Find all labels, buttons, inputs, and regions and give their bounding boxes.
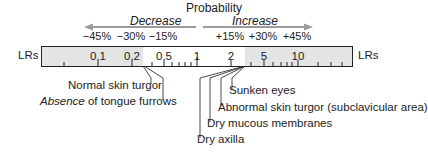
finding-abnormal-skin-turgor: Abnormal skin turgor (subclavicular area… xyxy=(218,101,428,113)
percentage-label: +45% xyxy=(283,30,311,42)
likelihood-ratio-scale: 0.1 0.2 0.5 1 2 5 10 xyxy=(41,46,353,67)
increase-label: Increase xyxy=(232,14,278,28)
finding-sunken-eyes: Sunken eyes xyxy=(229,84,296,96)
finding-italic-part: Absence xyxy=(40,95,85,107)
finding-dry-axilla: Dry axilla xyxy=(197,133,244,145)
lrs-axis-label-left: LRs xyxy=(18,49,38,61)
percentage-label: −30% xyxy=(117,30,145,42)
arrows-and-leaders xyxy=(0,0,428,152)
percentage-label: +30% xyxy=(249,30,277,42)
finding-dry-mucous-membranes: Dry mucous membranes xyxy=(207,117,332,129)
decrease-label: Decrease xyxy=(130,14,181,28)
percentage-label: −15% xyxy=(149,30,177,42)
finding-normal-skin-turgor: Normal skin turgor xyxy=(68,79,162,91)
percentage-label: −45% xyxy=(83,30,111,42)
finding-absence-tongue-furrows: Absence of tongue furrows xyxy=(40,95,177,107)
percentage-label: +15% xyxy=(216,30,244,42)
lrs-axis-label-right: LRs xyxy=(358,49,378,61)
finding-rest-part: of tongue furrows xyxy=(85,95,177,107)
scale-ticks xyxy=(42,47,352,66)
